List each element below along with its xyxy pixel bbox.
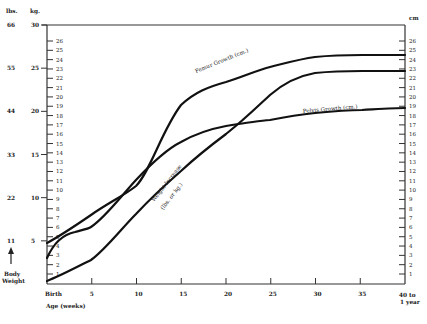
cm-tick-label-right: 10	[409, 187, 416, 193]
cm-tick-label-right: 6	[409, 224, 413, 230]
right-cm-ticks: 1234567891011121314151617181920212223242…	[399, 38, 416, 277]
femur-growth-curve	[47, 55, 405, 243]
cm-tick-label: 15	[56, 141, 63, 147]
cm-tick-label: 14	[56, 150, 63, 156]
growth-chart: lbs. kg. cm 51110221533204425553066 1234…	[0, 0, 427, 324]
kg-tick-label: 15	[31, 152, 39, 158]
cm-tick-label: 26	[56, 38, 63, 44]
cm-tick-label-right: 12	[409, 168, 416, 174]
cm-tick-label-right: 17	[409, 122, 416, 128]
cm-header: cm	[409, 15, 419, 21]
cm-tick-label: 12	[56, 168, 63, 174]
kg-tick-label: 25	[31, 65, 39, 71]
cm-tick-label: 13	[56, 159, 63, 165]
x-tick-label: 10	[135, 291, 143, 297]
lbs-tick-label: 22	[7, 195, 15, 201]
pelvis-growth-curve	[47, 108, 405, 258]
cm-tick-label-right: 2	[409, 262, 413, 268]
x-tick-last-2: 1 year	[400, 299, 421, 306]
cm-tick-label: 21	[56, 85, 63, 91]
weight-increase-curve	[47, 71, 405, 281]
x-tick-label: 5	[90, 291, 94, 297]
cm-tick-label: 7	[56, 215, 60, 221]
cm-tick-label: 16	[56, 131, 63, 137]
x-tick-label: 20	[224, 291, 232, 297]
x-axis-title: Age (weeks)	[45, 303, 86, 310]
cm-tick-label: 9	[56, 196, 60, 202]
cm-tick-label: 17	[56, 122, 63, 128]
femur-label: Femur Growth (cm.)	[194, 47, 249, 74]
cm-tick-label-right: 22	[409, 75, 416, 81]
x-tick-label: 30	[314, 291, 322, 297]
cm-tick-label: 3	[56, 252, 60, 258]
kg-tick-label: 20	[31, 108, 39, 114]
cm-tick-label-right: 8	[409, 206, 413, 212]
cm-tick-label: 24	[56, 57, 63, 63]
cm-tick-label: 6	[56, 224, 60, 230]
cm-tick-label-right: 18	[409, 113, 416, 119]
cm-tick-label: 25	[56, 47, 63, 53]
cm-tick-label: 10	[56, 187, 63, 193]
cm-tick-label-right: 4	[409, 243, 413, 249]
lbs-tick-label: 44	[7, 108, 15, 114]
cm-tick-label: 2	[56, 262, 60, 268]
body-weight-arrow-icon	[8, 247, 14, 264]
cm-tick-label-right: 21	[409, 85, 416, 91]
lbs-header: lbs.	[6, 8, 18, 14]
x-tick-label: Birth	[45, 291, 63, 297]
left-kg-ticks: 51110221533204425553066	[7, 22, 47, 244]
x-tick-label: 25	[269, 291, 277, 297]
cm-tick-label-right: 7	[409, 215, 413, 221]
cm-tick-label-right: 13	[409, 159, 416, 165]
cm-tick-label: 11	[56, 178, 63, 184]
cm-tick-label-right: 5	[409, 234, 413, 240]
cm-tick-label-right: 1	[409, 271, 413, 277]
cm-tick-label-right: 16	[409, 131, 416, 137]
lbs-tick-label: 33	[7, 152, 15, 158]
lbs-tick-label: 66	[7, 22, 15, 28]
cm-tick-label-right: 26	[409, 38, 416, 44]
cm-tick-label-right: 23	[409, 66, 416, 72]
kg-header: kg.	[30, 8, 40, 15]
body-weight-label-1: Body	[4, 271, 21, 278]
cm-tick-label-right: 15	[409, 141, 416, 147]
cm-tick-label: 23	[56, 66, 63, 72]
cm-tick-label: 8	[56, 206, 60, 212]
cm-tick-label-right: 25	[409, 47, 416, 53]
x-tick-label: 15	[179, 291, 187, 297]
cm-tick-label: 18	[56, 113, 63, 119]
cm-tick-label-right: 11	[409, 178, 416, 184]
cm-tick-label-right: 9	[409, 196, 413, 202]
lbs-tick-label: 55	[7, 65, 15, 71]
cm-tick-label: 22	[56, 75, 63, 81]
x-axis-ticks: Birth5101520253035	[45, 278, 366, 297]
cm-tick-label: 19	[56, 103, 63, 109]
cm-tick-label: 20	[56, 94, 63, 100]
cm-tick-label-right: 14	[409, 150, 416, 156]
x-tick-label: 35	[358, 291, 366, 297]
cm-tick-label-right: 20	[409, 94, 416, 100]
cm-tick-label-right: 19	[409, 103, 416, 109]
kg-tick-label: 30	[31, 22, 39, 28]
body-weight-label-2: Weight	[1, 278, 25, 285]
kg-tick-label: 10	[31, 195, 39, 201]
cm-tick-label-right: 24	[409, 57, 416, 63]
cm-tick-label-right: 3	[409, 252, 413, 258]
kg-tick-label: 5	[31, 238, 35, 244]
x-tick-last-1: 40 to	[399, 292, 416, 298]
lbs-tick-label: 11	[7, 238, 15, 244]
